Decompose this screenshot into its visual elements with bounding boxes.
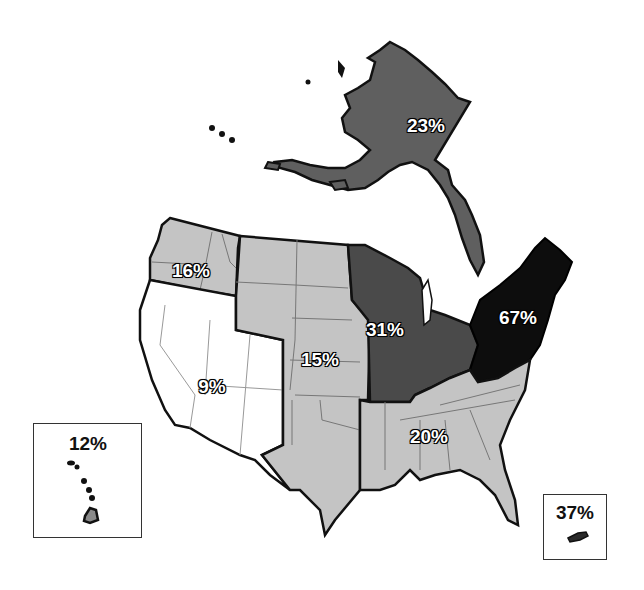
label-midwest: 31%: [366, 319, 404, 341]
puerto-rico-island: [544, 495, 606, 559]
label-plains: 15%: [301, 349, 339, 371]
inset-puerto-rico[interactable]: 37%: [543, 494, 607, 560]
label-southwest: 9%: [198, 376, 225, 398]
inset-hawaii[interactable]: 12%: [33, 423, 142, 538]
label-southeast: 20%: [410, 426, 448, 448]
hawaii-islands: [34, 424, 141, 537]
label-alaska: 23%: [407, 115, 445, 137]
label-northwest: 16%: [172, 260, 210, 282]
label-northeast: 67%: [499, 307, 537, 329]
